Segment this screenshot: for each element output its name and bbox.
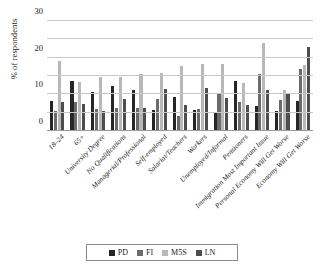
gridline-20: 20 xyxy=(47,93,313,94)
bar xyxy=(139,74,142,131)
bar xyxy=(164,89,167,131)
gridline-50: 50 xyxy=(47,38,313,39)
legend-swatch-icon xyxy=(196,250,202,256)
bar xyxy=(299,69,302,131)
bar xyxy=(156,99,159,131)
x-axis-labels: 18–2465+University DegreeNo Qualificatio… xyxy=(47,133,324,233)
y-tick-label: 30 xyxy=(35,6,44,16)
legend-item-fi[interactable]: FI xyxy=(137,249,153,257)
bar xyxy=(102,111,105,131)
bar xyxy=(152,110,155,131)
bar xyxy=(307,47,310,131)
gridline-10: 10 xyxy=(47,112,313,113)
bar xyxy=(123,99,126,131)
legend-item-pd[interactable]: PD xyxy=(109,249,128,257)
bar xyxy=(74,102,77,131)
bar xyxy=(279,100,282,131)
legend-label: FI xyxy=(146,249,153,257)
bar xyxy=(119,77,122,131)
y-tick-label: 20 xyxy=(35,43,44,53)
bar xyxy=(214,112,217,131)
bar xyxy=(258,74,261,131)
bar xyxy=(275,111,278,131)
x-axis-tick-label: 18–24 xyxy=(47,133,66,152)
legend-item-m5s[interactable]: M5S xyxy=(162,249,187,257)
chart-legend: PDFIM5SLN xyxy=(86,244,238,261)
gridline-60: 60 xyxy=(47,20,313,21)
bar xyxy=(225,98,228,131)
bar xyxy=(54,111,57,131)
y-axis-title: % of respondents xyxy=(9,0,19,99)
y-tick-label: 0 xyxy=(39,116,43,126)
bar xyxy=(61,102,64,131)
bar xyxy=(177,116,180,131)
bar xyxy=(255,106,258,131)
bar xyxy=(217,94,220,131)
bar xyxy=(50,101,53,131)
bar xyxy=(82,104,85,131)
bar xyxy=(132,90,135,131)
bar xyxy=(78,82,81,132)
legend-swatch-icon xyxy=(137,250,143,256)
bar xyxy=(242,83,245,131)
bar xyxy=(246,105,249,131)
bar xyxy=(58,61,61,131)
bar-chart: % of respondents 0102030405060 18–2465+U… xyxy=(0,0,324,272)
legend-label: LN xyxy=(205,249,216,257)
y-tick-label: 10 xyxy=(35,79,44,89)
bar xyxy=(173,97,176,131)
bar xyxy=(266,90,269,131)
bar xyxy=(160,73,163,131)
bar xyxy=(234,81,237,131)
legend-item-ln[interactable]: LN xyxy=(196,249,216,257)
gridline-0: 0 xyxy=(47,130,313,131)
legend-swatch-icon xyxy=(162,250,168,256)
legend-label: PD xyxy=(118,249,128,257)
bar xyxy=(184,105,187,131)
bar xyxy=(193,110,196,131)
bar xyxy=(283,90,286,131)
gridline-30: 30 xyxy=(47,75,313,76)
legend-label: M5S xyxy=(171,249,187,257)
legend-swatch-icon xyxy=(109,250,115,256)
gridline-40: 40 xyxy=(47,57,313,58)
bar xyxy=(238,102,241,131)
plot-area: 0102030405060 xyxy=(47,21,313,131)
bar xyxy=(296,101,299,131)
bar xyxy=(70,81,73,131)
bar xyxy=(205,88,208,131)
bar xyxy=(99,77,102,131)
x-axis-tick-label: 65+ xyxy=(72,133,86,147)
